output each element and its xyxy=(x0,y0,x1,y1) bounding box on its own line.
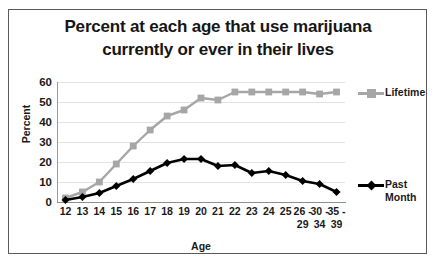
data-point-marker xyxy=(265,89,272,96)
data-point-marker xyxy=(96,179,103,186)
data-point-marker xyxy=(248,169,256,177)
data-point-marker xyxy=(282,89,289,96)
data-point-marker xyxy=(333,188,341,196)
data-point-marker xyxy=(299,89,306,96)
data-point-marker xyxy=(265,167,273,175)
legend-label-past-month-line-1: Past xyxy=(384,178,417,191)
data-point-marker xyxy=(129,175,137,183)
legend-label-lifetime: Lifetime xyxy=(384,86,425,99)
plot-area: 0102030405060 Percent 121314151617181920… xyxy=(0,0,436,270)
data-point-marker xyxy=(316,91,323,98)
data-point-marker xyxy=(299,177,307,185)
data-point-marker xyxy=(112,182,120,190)
data-point-marker xyxy=(95,189,103,197)
data-point-marker xyxy=(197,155,205,163)
data-point-marker xyxy=(214,162,222,170)
data-point-marker xyxy=(163,159,171,167)
legend-swatch-past-month xyxy=(358,179,384,191)
legend-swatch-lifetime xyxy=(358,87,384,99)
data-point-marker xyxy=(248,89,255,96)
legend-item-past-month[interactable]: Past Month xyxy=(358,178,417,203)
legend-item-lifetime[interactable]: Lifetime xyxy=(358,86,425,99)
data-point-marker xyxy=(231,89,238,96)
data-point-marker xyxy=(147,127,154,134)
data-point-marker xyxy=(282,171,290,179)
x-axis-ticks: 121314151617181920212223242526 -2930 -34… xyxy=(57,205,345,239)
data-point-marker xyxy=(130,143,137,150)
data-point-marker xyxy=(164,113,171,120)
legend-label-past-month-line-2: Month xyxy=(384,191,417,204)
data-point-marker xyxy=(316,180,324,188)
data-point-marker xyxy=(113,161,120,168)
chart-figure: Percent at each age that use marijuana c… xyxy=(0,0,436,270)
series-lifetime xyxy=(62,89,340,202)
x-axis-tick-label: 35 -39 xyxy=(322,205,352,230)
data-point-marker xyxy=(198,95,205,102)
data-point-marker xyxy=(231,161,239,169)
data-point-marker xyxy=(181,107,188,114)
data-point-marker xyxy=(146,167,154,175)
data-point-marker xyxy=(333,89,340,96)
x-axis-label: Age xyxy=(57,240,345,252)
data-point-marker xyxy=(180,155,188,163)
data-point-marker xyxy=(215,97,222,104)
